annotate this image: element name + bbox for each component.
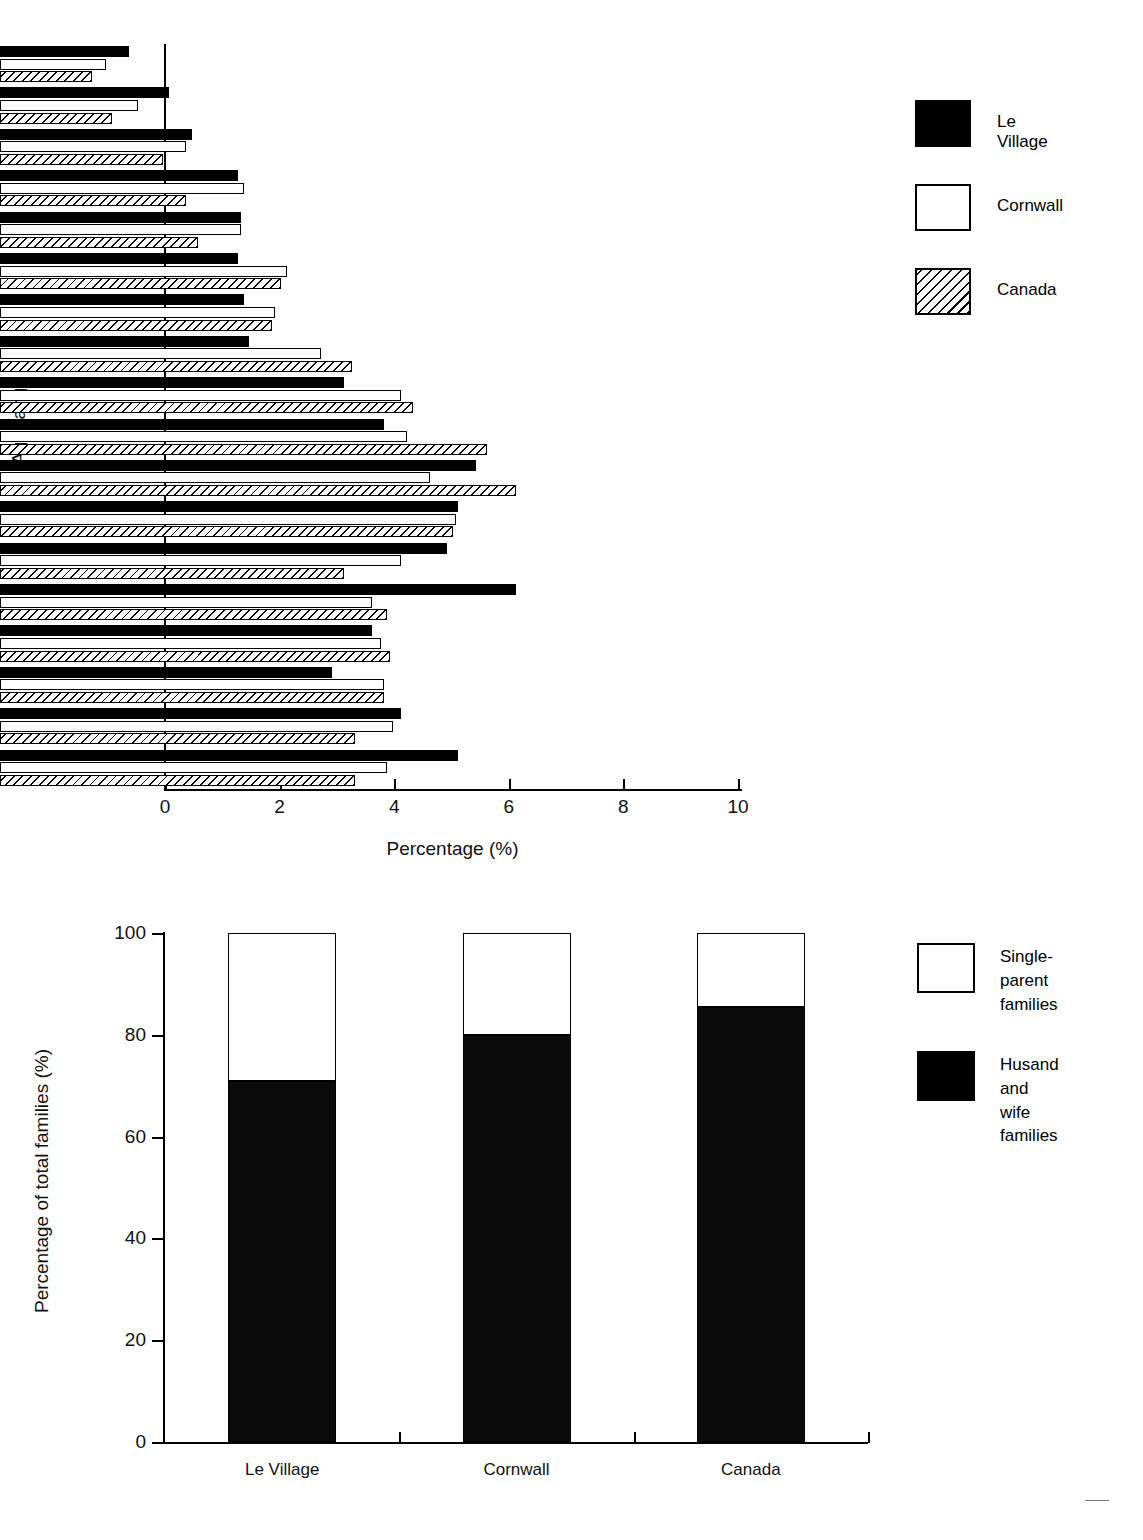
y-tick-label: 100 <box>114 922 146 944</box>
stacked-bar-canada <box>697 933 805 1442</box>
bar-lv <box>0 419 384 430</box>
age-group-bars <box>0 44 1143 85</box>
chart2-y-axis-title: Percentage of total families (%) <box>31 971 53 1391</box>
age-group-bars <box>0 210 1143 251</box>
x-tick-label: 10 <box>727 796 748 818</box>
bar-cw <box>0 597 372 608</box>
bar-lv <box>0 377 344 388</box>
y-axis-tick <box>152 1137 165 1139</box>
chart1-x-axis-line <box>164 789 742 791</box>
bar-cw <box>0 390 401 401</box>
bar-ca <box>0 485 516 496</box>
segment-single-parent <box>697 933 805 1007</box>
segment-single-parent <box>228 933 336 1081</box>
bar-cw <box>0 59 106 70</box>
bar-cw <box>0 266 287 277</box>
x-tick-label: 2 <box>274 796 285 818</box>
bar-ca <box>0 651 390 662</box>
bar-ca <box>0 278 281 289</box>
stacked-bar-le-village <box>228 933 336 1442</box>
bar-lv <box>0 336 249 347</box>
family-composition-chart: Percentage of total families (%) 0204060… <box>0 880 1143 1540</box>
y-axis-end-cap <box>152 933 165 935</box>
age-group-bars <box>0 458 1143 499</box>
x-axis-end-cap <box>868 1432 870 1443</box>
x-tick-label: Le Village <box>245 1460 319 1480</box>
age-group-bars <box>0 127 1143 168</box>
bar-cw <box>0 141 186 152</box>
bar-lv <box>0 708 401 719</box>
bar-ca <box>0 195 186 206</box>
y-tick-label: 0 <box>135 1431 146 1453</box>
bar-cw <box>0 679 384 690</box>
age-group-bars <box>0 292 1143 333</box>
age-group-bars <box>0 499 1143 540</box>
y-axis-tick <box>152 1340 165 1342</box>
bar-ca <box>0 237 198 248</box>
bar-cw <box>0 431 407 442</box>
chart2-y-axis-line <box>163 932 165 1444</box>
y-tick-label: 40 <box>125 1227 146 1249</box>
x-tick-label: 8 <box>618 796 629 818</box>
x-axis-tick <box>399 1432 401 1443</box>
bar-ca <box>0 402 413 413</box>
x-tick-label: 6 <box>504 796 515 818</box>
bar-lv <box>0 253 238 264</box>
bar-cw <box>0 721 393 732</box>
bar-cw <box>0 514 456 525</box>
age-group-bars <box>0 85 1143 126</box>
segment-husband-wife <box>463 1035 571 1442</box>
bar-cw <box>0 224 241 235</box>
bar-lv <box>0 584 516 595</box>
bar-lv <box>0 625 372 636</box>
x-tick-label: 0 <box>160 796 171 818</box>
bar-ca <box>0 733 355 744</box>
bar-ca <box>0 154 163 165</box>
bar-ca <box>0 568 344 579</box>
y-tick-label: 60 <box>125 1126 146 1148</box>
bar-lv <box>0 501 458 512</box>
page-footer-rule <box>1085 1500 1109 1501</box>
age-group-bars <box>0 168 1143 209</box>
age-group-bars <box>0 748 1143 789</box>
solid-black-swatch-icon <box>917 1051 975 1101</box>
x-tick-label: Canada <box>721 1460 781 1480</box>
solid-black-swatch-icon <box>915 100 971 147</box>
bar-ca <box>0 113 112 124</box>
bar-cw <box>0 307 275 318</box>
legend-label-cornwall: Cornwall <box>997 196 1063 216</box>
bar-cw <box>0 348 321 359</box>
age-group-bars <box>0 582 1143 623</box>
x-tick-label: 4 <box>389 796 400 818</box>
bar-lv <box>0 750 458 761</box>
y-tick-label: 20 <box>125 1329 146 1351</box>
x-axis-tick <box>634 1432 636 1443</box>
bar-ca <box>0 609 387 620</box>
bar-cw <box>0 183 244 194</box>
bar-lv <box>0 212 241 223</box>
bar-lv <box>0 46 129 57</box>
bar-cw <box>0 100 138 111</box>
bar-lv <box>0 170 238 181</box>
age-group-bars <box>0 251 1143 292</box>
age-group-bars <box>0 334 1143 375</box>
outline-white-swatch-icon <box>915 184 971 231</box>
bar-cw <box>0 472 430 483</box>
bar-ca <box>0 71 92 82</box>
bar-lv <box>0 129 192 140</box>
legend-label-canada: Canada <box>997 280 1057 300</box>
y-axis-tick <box>152 1238 165 1240</box>
outline-white-swatch-icon <box>917 943 975 993</box>
bar-ca <box>0 775 355 786</box>
bar-ca <box>0 526 453 537</box>
bar-cw <box>0 638 381 649</box>
hatched-swatch-icon <box>915 268 971 315</box>
x-tick-label: Cornwall <box>483 1460 549 1480</box>
bar-cw <box>0 555 401 566</box>
legend-label-single-parent: Single-parent families <box>1000 945 1058 1016</box>
legend-label-le-village: Le Village <box>997 112 1048 152</box>
bar-lv <box>0 294 244 305</box>
age-group-bars <box>0 417 1143 458</box>
age-group-bars <box>0 706 1143 747</box>
bar-lv <box>0 667 332 678</box>
